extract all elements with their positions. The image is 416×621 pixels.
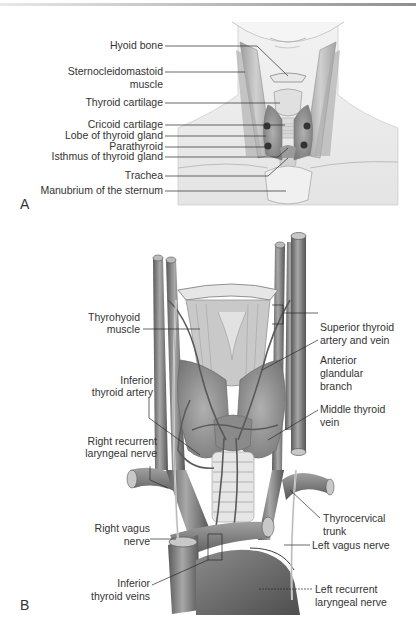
label-sternocleidomastoid-2: muscle bbox=[130, 78, 163, 91]
label-trachea: Trachea bbox=[125, 169, 163, 182]
panel-a-art bbox=[178, 22, 398, 205]
label-middle-thyroid-vein: Middle thyroid bbox=[320, 403, 385, 416]
label-anterior-glandular-2: glandular bbox=[320, 367, 363, 380]
label-manubrium: Manubrium of the sternum bbox=[40, 184, 163, 197]
label-anterior-glandular-3: branch bbox=[320, 380, 352, 393]
label-inferior-thyroid-artery: Inferior bbox=[120, 374, 153, 387]
label-middle-thyroid-vein-2: vein bbox=[320, 416, 339, 429]
label-thyroid-cartilage: Thyroid cartilage bbox=[85, 96, 163, 109]
label-right-recurrent-laryngeal-2: laryngeal nerve bbox=[85, 447, 157, 460]
label-superior-thyroid: Superior thyroid bbox=[320, 321, 394, 334]
label-anterior-glandular: Anterior bbox=[320, 354, 357, 367]
label-hyoid-bone: Hyoid bone bbox=[110, 39, 163, 52]
label-isthmus-of-thyroid-gland: Isthmus of thyroid gland bbox=[52, 150, 163, 163]
label-sternocleidomastoid: Sternocleidomastoid bbox=[68, 65, 163, 78]
label-left-recurrent-laryngeal: Left recurrent bbox=[315, 583, 377, 596]
label-inferior-thyroid-artery-2: thyroid artery bbox=[92, 386, 153, 399]
label-thyrohyoid-2: muscle bbox=[107, 323, 140, 336]
label-thyrohyoid: Thyrohyoid bbox=[88, 311, 140, 324]
panel-letter-a: A bbox=[20, 196, 29, 212]
thyroid-anatomy-illustration bbox=[0, 0, 416, 621]
label-right-vagus: Right vagus bbox=[95, 522, 150, 535]
label-right-vagus-2: nerve bbox=[124, 535, 150, 548]
label-thyrocervical: Thyrocervical bbox=[323, 512, 385, 525]
label-thyrocervical-2: trunk bbox=[323, 525, 346, 538]
label-left-recurrent-laryngeal-2: laryngeal nerve bbox=[315, 596, 387, 609]
panel-letter-b: B bbox=[20, 597, 29, 613]
panel-b-art bbox=[127, 233, 334, 616]
label-inferior-thyroid-veins: Inferior bbox=[117, 577, 150, 590]
label-inferior-thyroid-veins-2: thyroid veins bbox=[91, 590, 150, 603]
label-superior-thyroid-2: artery and vein bbox=[320, 334, 389, 347]
label-right-recurrent-laryngeal: Right recurrent bbox=[88, 435, 157, 448]
label-left-vagus-nerve: Left vagus nerve bbox=[312, 539, 390, 552]
